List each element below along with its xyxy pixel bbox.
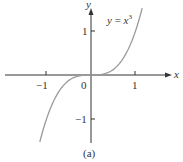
curve-label-eq: = (112, 14, 124, 26)
curve-label: y = x3 (107, 14, 132, 26)
curve-label-exponent: 3 (129, 13, 133, 21)
x-tick-label-pos1: 1 (132, 80, 138, 91)
y-tick-label-pos1: 1 (82, 26, 88, 37)
x-axis-arrow-icon (165, 73, 172, 78)
cubic-function-figure: y x y = x3 −1 1 0 1 −1 (a) (0, 0, 183, 162)
origin-label: 0 (81, 80, 87, 91)
y-tick-label-neg1: −1 (75, 114, 87, 125)
x-tick-label-neg1: −1 (36, 80, 48, 91)
figure-caption: (a) (83, 148, 95, 159)
x-axis-label: x (174, 69, 179, 80)
y-axis-label: y (86, 0, 91, 10)
plot-area (0, 0, 183, 162)
